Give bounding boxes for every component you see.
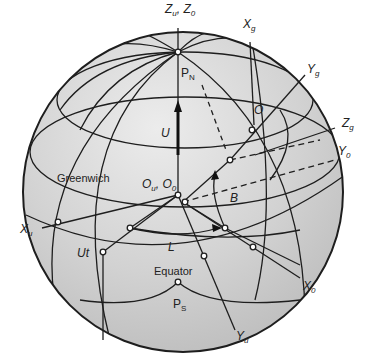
label-ps: PS — [173, 298, 186, 313]
label-yu: Yu — [236, 330, 248, 345]
label-y0: Y0 — [338, 145, 350, 160]
label-pn: PN — [181, 67, 195, 82]
label-o: O — [254, 104, 263, 116]
label-zg: Zg — [342, 117, 354, 132]
label-yg: Yg — [307, 63, 319, 78]
label-zu-z0: Zu, Z0 — [165, 3, 195, 18]
label-greenwich: Greenwich — [57, 173, 110, 184]
label-ut: Ut — [77, 247, 89, 259]
label-x0: X0 — [303, 280, 315, 295]
label-b: B — [230, 192, 238, 204]
label-xu: Xu — [20, 223, 32, 238]
label-equator: Equator — [154, 266, 193, 277]
point-o0 — [175, 192, 181, 198]
label-xg: Xg — [243, 18, 255, 33]
point-o — [249, 127, 255, 133]
point-ps — [175, 279, 181, 285]
label-l: L — [168, 241, 175, 253]
label-u: U — [161, 127, 170, 139]
point-pn — [175, 49, 181, 55]
label-ou-o0: Ou, O0 — [142, 178, 176, 193]
